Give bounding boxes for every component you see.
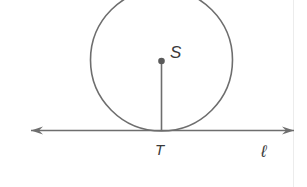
- tangent-circle-diagram: S T ℓ: [0, 0, 307, 187]
- label-t: T: [155, 141, 166, 158]
- geometry-figure: S T ℓ: [0, 0, 307, 187]
- center-point-s: [158, 58, 165, 65]
- label-s: S: [170, 43, 182, 62]
- label-line-l: ℓ: [260, 142, 267, 161]
